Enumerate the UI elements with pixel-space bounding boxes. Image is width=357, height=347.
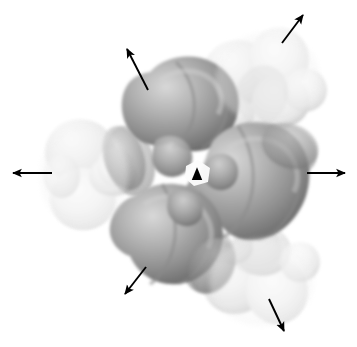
lower-left-arrow [125, 267, 146, 294]
molecular-orbital-figure [0, 0, 357, 347]
isosurface-canvas [0, 0, 357, 347]
soft-wash-lower-right [210, 238, 314, 326]
soft-wash-upper-right [216, 32, 320, 124]
soft-wash-left [40, 124, 128, 228]
